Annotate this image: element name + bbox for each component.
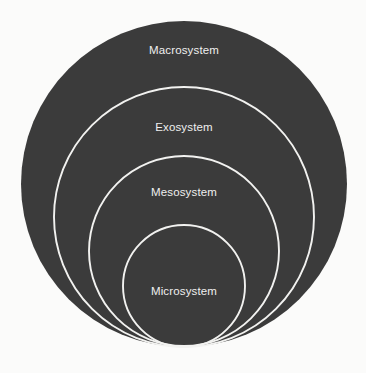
exosystem-label: Exosystem: [155, 121, 213, 133]
mesosystem-label: Mesosystem: [151, 186, 217, 198]
macrosystem-circle: [21, 21, 347, 347]
microsystem-label: Microsystem: [151, 285, 217, 297]
nested-circles-canvas: Macrosystem Exosystem Mesosystem Microsy…: [0, 0, 366, 373]
ecological-systems-diagram: Macrosystem Exosystem Mesosystem Microsy…: [0, 0, 366, 373]
macrosystem-label: Macrosystem: [149, 44, 219, 56]
